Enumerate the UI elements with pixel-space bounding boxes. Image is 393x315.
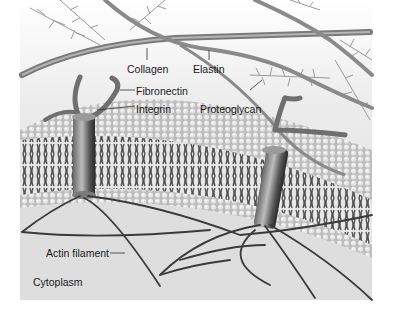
fibronectin-right-arm xyxy=(285,98,300,99)
integrin-right-top xyxy=(262,146,286,154)
label-integrin: Integrin xyxy=(136,103,171,115)
label-elastin: Elastin xyxy=(193,63,225,75)
label-actin-filament: Actin filament xyxy=(46,247,109,259)
integrin-left xyxy=(73,116,95,196)
ecm-diagram: Collagen Elastin Fibronectin Integrin Pr… xyxy=(0,0,393,315)
label-collagen: Collagen xyxy=(127,63,168,75)
label-fibronectin: Fibronectin xyxy=(136,85,188,97)
label-cytoplasm: Cytoplasm xyxy=(33,276,83,288)
label-proteoglycan: Proteoglycan xyxy=(200,103,261,115)
ecm-illustration xyxy=(0,0,393,315)
integrin-left-top xyxy=(72,113,96,121)
